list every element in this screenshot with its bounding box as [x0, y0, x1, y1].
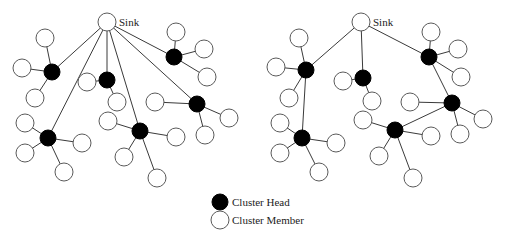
cluster-member-node	[55, 163, 73, 181]
cluster-member-node	[13, 59, 31, 77]
cluster-head-node	[355, 70, 371, 86]
uplink-edge	[302, 70, 306, 138]
cluster-member-node	[148, 169, 166, 187]
cluster-head-node	[40, 130, 56, 146]
sink-node	[98, 13, 116, 31]
cluster-member-node	[452, 68, 470, 86]
cluster-member-node	[196, 126, 214, 144]
nodes-layer	[13, 13, 492, 187]
cluster-member-node	[271, 114, 289, 132]
cluster-member-node	[73, 134, 91, 152]
cluster-member-node	[310, 163, 328, 181]
cluster-member-node	[370, 147, 388, 165]
cluster-member-node	[16, 144, 34, 162]
cluster-member-node	[401, 93, 419, 111]
cluster-member-node	[334, 72, 352, 90]
cluster-head-node	[421, 49, 437, 65]
cluster-member-node	[220, 109, 238, 127]
cluster-member-node	[422, 127, 440, 145]
sink-label: Sink	[119, 16, 140, 28]
cluster-member-node	[99, 112, 117, 130]
cluster-member-node	[167, 128, 185, 146]
legend-cluster-head-icon	[212, 194, 228, 210]
cluster-member-node	[36, 29, 54, 47]
cluster-head-node	[387, 122, 403, 138]
cluster-member-node	[267, 58, 285, 76]
cluster-head-node	[189, 96, 205, 112]
uplink-edge	[48, 22, 107, 138]
cluster-member-node	[363, 92, 381, 110]
legend-cluster-head-label: Cluster Head	[232, 196, 290, 208]
cluster-member-node	[146, 93, 164, 111]
uplink-edge	[306, 22, 361, 70]
uplink-edge	[361, 22, 429, 57]
legend-cluster-member-icon	[211, 211, 229, 229]
cluster-member-node	[354, 111, 372, 129]
cluster-member-node	[474, 110, 492, 128]
sink-node	[352, 13, 370, 31]
legend-cluster-member-label: Cluster Member	[232, 214, 304, 226]
cluster-member-node	[195, 40, 213, 58]
cluster-topology-figure: SinkSink Cluster Head Cluster Member	[0, 0, 508, 238]
cluster-member-node	[280, 89, 298, 107]
cluster-head-node	[132, 123, 148, 139]
cluster-member-node	[290, 29, 308, 47]
cluster-member-node	[16, 114, 34, 132]
cluster-head-node	[444, 95, 460, 111]
cluster-member-node	[108, 93, 126, 111]
sink-label: Sink	[373, 16, 394, 28]
cluster-member-node	[422, 23, 440, 41]
cluster-member-node	[327, 134, 345, 152]
cluster-member-node	[449, 40, 467, 58]
cluster-head-node	[99, 72, 115, 88]
cluster-member-node	[198, 68, 216, 86]
uplink-edge	[107, 22, 174, 57]
cluster-head-node	[294, 130, 310, 146]
cluster-member-node	[167, 23, 185, 41]
cluster-member-node	[271, 144, 289, 162]
cluster-head-node	[166, 49, 182, 65]
cluster-head-node	[44, 64, 60, 80]
cluster-head-node	[298, 62, 314, 78]
legend: Cluster Head Cluster Member	[211, 194, 304, 229]
uplink-edge	[52, 22, 107, 72]
cluster-member-node	[78, 73, 96, 91]
cluster-member-node	[115, 148, 133, 166]
cluster-member-node	[26, 89, 44, 107]
cluster-member-node	[451, 125, 469, 143]
cluster-member-node	[404, 169, 422, 187]
